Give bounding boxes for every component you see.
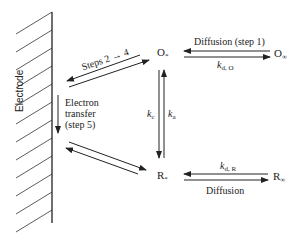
diffusion-top-label: Diffusion (step 1) — [194, 36, 265, 47]
electron-transfer-label: Electron transfer (step 5) — [65, 97, 99, 130]
rate-k-c-label: kc — [147, 108, 155, 123]
electrode-hatching — [16, 12, 52, 232]
rate-k-a-label: ka — [168, 108, 176, 123]
rate-k-d-r-label: kd, R — [220, 160, 236, 175]
diffusion-bottom-label: Diffusion — [206, 185, 244, 196]
species-o-surface: O* — [157, 47, 168, 62]
species-r-surface: R* — [157, 170, 168, 185]
arrow-to-r-surface — [69, 142, 146, 170]
electrode-label: Electrode — [14, 70, 25, 112]
arrow-r-to-electrode — [66, 148, 138, 174]
species-o-bulk: O∞ — [274, 48, 287, 63]
rate-k-d-o-label: kd, O — [217, 59, 234, 74]
species-r-bulk: R∞ — [273, 171, 285, 186]
